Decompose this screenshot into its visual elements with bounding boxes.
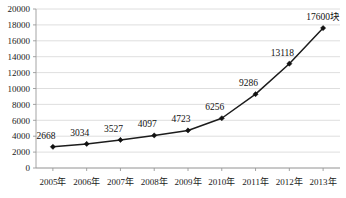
x-tick-label: 2009年 <box>175 176 202 187</box>
y-axis-tick-labels: 0200040006000800010000120001400016000180… <box>8 4 31 173</box>
data-point-marker <box>118 137 123 142</box>
x-tick-label: 2013年 <box>310 176 337 187</box>
y-tick-label: 0 <box>26 163 31 173</box>
y-tick-label: 4000 <box>12 131 31 141</box>
y-tick-label: 16000 <box>8 36 31 46</box>
data-point-label: 4097 <box>138 119 157 129</box>
data-point-marker <box>84 141 89 146</box>
y-tick-label: 10000 <box>8 84 31 94</box>
data-point-label: 4723 <box>172 114 191 124</box>
data-point-marker <box>50 144 55 149</box>
y-tick-label: 8000 <box>12 100 31 110</box>
x-tick-label: 2011年 <box>242 176 269 187</box>
data-point-label: 2668 <box>36 131 55 141</box>
x-tick-label: 2012年 <box>276 176 303 187</box>
x-axis-tick-labels: 2005年2006年2007年2008年2009年2010年2011年2012年… <box>39 176 336 187</box>
data-point-label: 3527 <box>104 124 123 134</box>
data-point-markers <box>50 25 325 149</box>
data-point-marker <box>185 128 190 133</box>
x-tick-label: 2007年 <box>107 176 134 187</box>
x-tick-label: 2005年 <box>39 176 66 187</box>
x-tick-label: 2010年 <box>208 176 235 187</box>
data-point-label: 3034 <box>70 128 89 138</box>
x-tick-label: 2008年 <box>141 176 168 187</box>
data-point-marker <box>152 133 157 138</box>
chart-canvas: 0200040006000800010000120001400016000180… <box>0 0 346 198</box>
y-tick-label: 2000 <box>12 147 31 157</box>
data-point-labels: 26683034352740974723625692861311817600块 <box>36 11 340 141</box>
y-tick-label: 12000 <box>8 68 31 78</box>
y-tick-label: 18000 <box>8 20 31 30</box>
y-tick-label: 20000 <box>8 4 31 14</box>
data-point-label: 6256 <box>205 102 224 112</box>
data-point-label: 17600块 <box>306 11 340 22</box>
data-point-label: 13118 <box>271 48 295 58</box>
y-tick-label: 14000 <box>8 52 31 62</box>
data-point-label: 9286 <box>239 78 258 88</box>
x-tick-label: 2006年 <box>73 176 100 187</box>
y-tick-label: 6000 <box>12 116 31 126</box>
line-chart-figure: 0200040006000800010000120001400016000180… <box>0 0 346 198</box>
axis-tick-marks <box>33 9 323 171</box>
